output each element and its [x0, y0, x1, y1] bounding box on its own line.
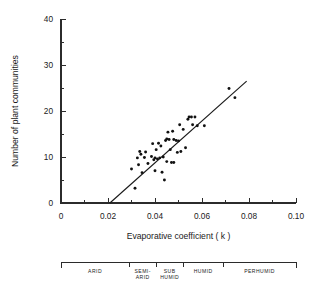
data-point — [171, 130, 174, 133]
x-tick-label: 0.04 — [147, 211, 164, 221]
data-point — [147, 162, 150, 165]
data-point — [139, 153, 142, 156]
climate-zone-label: SUB — [164, 268, 176, 274]
y-tick-label: 10 — [44, 152, 54, 162]
data-point — [150, 155, 153, 158]
x-axis-title: Evaporative coefficient ( k ) — [127, 231, 231, 241]
data-point — [165, 160, 168, 163]
y-axis-title: Number of plant communities — [10, 55, 20, 167]
data-point — [136, 156, 139, 159]
data-point — [190, 116, 193, 119]
x-tick-label: 0 — [59, 211, 64, 221]
data-point — [144, 150, 147, 153]
data-point — [157, 142, 160, 145]
y-tick-label: 20 — [44, 106, 54, 116]
data-point — [151, 142, 154, 145]
x-tick-label: 0.02 — [100, 211, 117, 221]
data-point — [228, 87, 231, 90]
data-point — [163, 179, 166, 182]
axis-spines — [61, 19, 296, 203]
data-point — [168, 138, 171, 141]
data-point — [182, 128, 185, 131]
data-point — [137, 163, 140, 166]
data-point — [143, 156, 146, 159]
climate-zone-label: HUMID — [194, 268, 213, 274]
data-point — [141, 171, 144, 174]
data-point — [172, 161, 175, 164]
x-tick-label: 0.08 — [241, 211, 258, 221]
data-point — [138, 150, 141, 153]
climate-zone-label: HUMID — [160, 274, 179, 280]
data-point — [158, 156, 161, 159]
data-point — [166, 131, 169, 134]
data-point — [161, 171, 164, 174]
data-point — [196, 124, 199, 127]
data-point — [130, 168, 133, 171]
figure-scatter-plant-communities: 01020304000.020.040.060.080.10Evaporativ… — [0, 0, 311, 290]
data-point — [159, 145, 162, 148]
data-point — [178, 123, 181, 126]
climate-zone-label: SEMI- — [134, 268, 150, 274]
data-point — [191, 123, 194, 126]
chart-canvas: 01020304000.020.040.060.080.10Evaporativ… — [0, 0, 311, 290]
data-point — [233, 96, 236, 99]
data-point — [194, 116, 197, 119]
data-point — [134, 187, 137, 190]
data-point — [176, 151, 179, 154]
climate-zone-label: PERHUMID — [244, 268, 275, 274]
data-point — [169, 148, 172, 151]
data-point — [162, 156, 165, 159]
climate-zone-label: ARID — [88, 268, 102, 274]
y-tick-label: 40 — [44, 14, 54, 24]
data-point — [179, 150, 182, 153]
data-point — [177, 139, 180, 142]
data-point — [155, 148, 158, 151]
y-tick-label: 30 — [44, 60, 54, 70]
data-point — [203, 124, 206, 127]
data-point — [184, 146, 187, 149]
x-tick-label: 0.06 — [194, 211, 211, 221]
x-tick-label: 0.10 — [288, 211, 305, 221]
climate-zone-label: ARID — [136, 274, 150, 280]
data-point — [154, 169, 157, 172]
y-tick-label: 0 — [48, 198, 53, 208]
